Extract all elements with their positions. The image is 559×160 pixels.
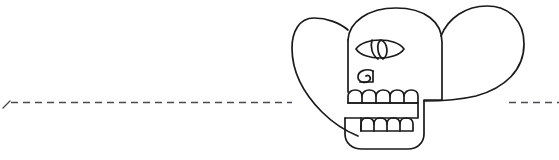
dashed-guideline	[3, 101, 559, 108]
mouth-band	[345, 103, 418, 118]
artboard	[0, 0, 559, 160]
screenshot-canvas: • • •	[0, 0, 559, 160]
eye-pupil	[378, 40, 387, 59]
eye-lid-crease	[371, 40, 378, 59]
nose-spiral	[358, 70, 373, 83]
cranium-and-face-outline	[345, 8, 442, 149]
nose	[358, 70, 373, 83]
lower-teeth	[361, 118, 413, 131]
right-lobe	[424, 6, 524, 101]
upper-teeth	[348, 90, 418, 103]
skull-figure	[292, 6, 524, 149]
baseline-left-tick	[3, 101, 10, 108]
upper-teeth-band	[348, 90, 418, 103]
eye	[356, 40, 404, 59]
